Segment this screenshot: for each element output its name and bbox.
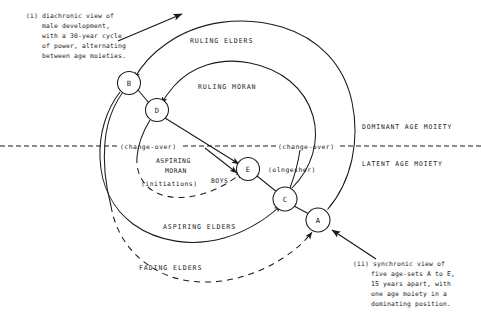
aspiring-moran-label-line2: MORAN <box>165 167 187 175</box>
arc-label-fading-elders: FADING ELDERS <box>139 264 202 272</box>
latent-moiety-label: LATENT AGE MOIETY <box>362 160 443 168</box>
node-e-label: E <box>246 165 251 174</box>
annotation-i-line-3: with a 30-year cycle <box>42 32 122 40</box>
annotation-i-line-1: (i) diachronic view of <box>26 12 114 20</box>
node-e[interactable]: E <box>237 158 260 181</box>
annotation-i: (i) diachronic view of male development,… <box>26 12 126 60</box>
inner-labels: ASPIRING MORAN (initiations) BOYS (olnge… <box>141 157 316 188</box>
node-c-label: C <box>283 195 288 204</box>
node-c[interactable]: C <box>273 187 297 211</box>
node-a[interactable]: A <box>306 208 330 232</box>
node-d[interactable]: D <box>146 99 169 122</box>
annotation-ii-line-1: (ii) synchronic view of <box>353 260 445 268</box>
annotation-ii-line-3: 15 years apart, with <box>371 280 451 288</box>
aspiring-moran-label-line1: ASPIRING <box>156 157 191 165</box>
annotation-i-line-2: male development, <box>42 22 110 30</box>
initiations-label: (initiations) <box>141 180 198 188</box>
dominant-moiety-label: DOMINANT AGE MOIETY <box>362 123 452 131</box>
olngesher-label: (olngesher) <box>268 166 316 174</box>
changeover-label-right: (change-over) <box>278 143 335 151</box>
node-b[interactable]: B <box>118 72 141 95</box>
annotation-ii-line-4: one age moiety in a <box>371 290 447 298</box>
annotation-i-line-5: between age moieties. <box>42 52 126 60</box>
arc-label-ruling-moran: RULING MORAN <box>198 83 256 91</box>
arc-label-aspiring-elders: ASPIRING ELDERS <box>163 223 236 231</box>
annotation-ii-line-2: five age-sets A to E, <box>371 270 455 278</box>
annotation-i-arrow <box>118 14 182 41</box>
spiral-diagram-svg: RULING ELDERS RULING MORAN ASPIRING ELDE… <box>0 0 481 312</box>
annotation-i-line-4: of power, alternating <box>42 42 126 50</box>
node-a-label: A <box>316 216 321 225</box>
changeover-label-left: (change-over) <box>120 143 177 151</box>
annotation-ii-line-5: dominating position. <box>371 300 451 308</box>
boys-label: BOYS <box>211 177 228 185</box>
diagram-canvas: RULING ELDERS RULING MORAN ASPIRING ELDE… <box>0 0 481 312</box>
annotation-ii-arrow <box>332 230 376 259</box>
node-d-label: D <box>155 106 160 115</box>
node-b-label: B <box>127 79 132 88</box>
arc-fading-elders: FADING ELDERS <box>111 206 312 282</box>
annotation-ii: (ii) synchronic view of five age-sets A … <box>353 260 455 308</box>
arc-label-ruling-elders: RULING ELDERS <box>190 37 253 45</box>
